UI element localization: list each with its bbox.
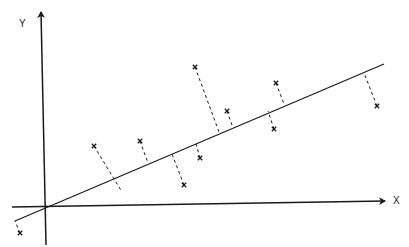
data-point-x-marker-icon: [193, 65, 197, 69]
data-point-x-marker-icon: [274, 81, 278, 85]
data-point-x-marker-icon: [182, 183, 186, 187]
residual-line: [140, 141, 148, 163]
data-point-x-marker-icon: [375, 104, 379, 108]
data-points: [18, 65, 379, 235]
residual-line: [227, 111, 232, 125]
residual-line: [268, 111, 274, 129]
y-axis-label: Y: [19, 18, 26, 29]
x-axis: [12, 201, 385, 207]
regression-diagram: [0, 0, 409, 247]
regression-line: [15, 64, 384, 221]
data-point-x-marker-icon: [92, 144, 96, 148]
residual-line: [172, 154, 184, 185]
data-point-x-marker-icon: [18, 231, 22, 235]
x-axis-label: X: [393, 195, 400, 206]
residual-line: [276, 83, 284, 104]
residual-segments: [15, 67, 377, 233]
data-point-x-marker-icon: [138, 139, 142, 143]
data-point-x-marker-icon: [225, 109, 229, 113]
residual-line: [195, 67, 219, 132]
residual-line: [364, 73, 377, 106]
